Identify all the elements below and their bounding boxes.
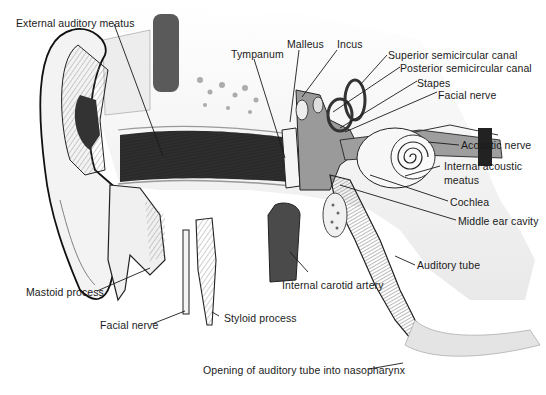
label-malleus: Malleus <box>287 38 324 50</box>
processes <box>108 185 216 325</box>
label-cochlea: Cochlea <box>450 196 489 208</box>
label-stapes: Stapes <box>417 77 450 89</box>
label-superior-semicircular-canal: Superior semicircular canal <box>388 49 517 61</box>
label-posterior-semicircular-canal: Posterior semicircular canal <box>400 62 532 74</box>
label-external-auditory-meatus: External auditory meatus <box>16 17 135 29</box>
internal-carotid-artery-vessel <box>268 203 300 282</box>
external-auditory-canal <box>118 127 292 186</box>
label-mastoid-process: Mastoid process <box>26 286 104 298</box>
bone-fragment <box>323 193 347 237</box>
label-facial-nerve-lower: Facial nerve <box>100 319 158 331</box>
label-incus: Incus <box>337 38 363 50</box>
ear-anatomy-diagram: External auditory meatus Tympanum Malleu… <box>0 0 546 395</box>
label-middle-ear-cavity: Middle ear cavity <box>458 215 538 227</box>
label-acoustic-nerve: Acoustic nerve <box>461 139 531 151</box>
label-facial-nerve-upper: Facial nerve <box>438 89 496 101</box>
label-styloid-process: Styloid process <box>224 312 297 324</box>
label-tympanum: Tympanum <box>231 48 284 60</box>
label-opening-auditory-tube: Opening of auditory tube into nasopharyn… <box>203 364 405 376</box>
label-internal-acoustic-meatus-line1: Internal acoustic <box>444 160 522 172</box>
label-internal-carotid-artery: Internal carotid artery <box>282 279 384 291</box>
label-internal-acoustic-meatus-line2: meatus <box>444 174 479 186</box>
label-auditory-tube: Auditory tube <box>417 259 480 271</box>
